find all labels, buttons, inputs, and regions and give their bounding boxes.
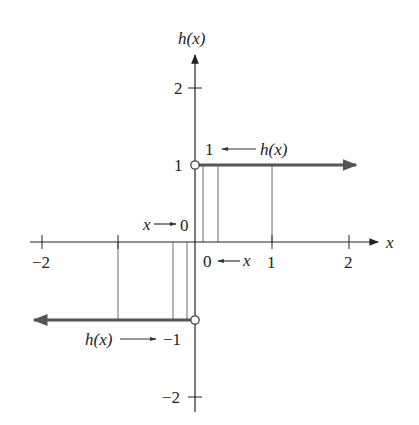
annotation-x-left-zero: 0	[180, 216, 189, 235]
x-tick-label-neg2: −2	[32, 253, 50, 272]
annotation-x-right-zero: 0	[203, 252, 212, 271]
annotation-upper-limit: 1	[205, 140, 214, 159]
x-tick-label-2: 2	[344, 253, 353, 272]
x-tick-label-1: 1	[267, 253, 276, 272]
y-tick-label-2: 2	[174, 79, 183, 98]
annotation-x-left: x	[142, 215, 151, 234]
annotation-lower-limit: −1	[163, 330, 181, 349]
guide-lines-positive	[203, 165, 272, 242]
annotation-x-right-x: x	[242, 251, 251, 270]
y-tick-label-1: 1	[174, 156, 183, 175]
annotation-upper-hx: h(x)	[260, 140, 288, 159]
step-function-figure: h(x) x 2 1 −2 −2 1 2 1 h(x) h(x) −1 x 0 …	[0, 0, 419, 425]
open-endpoint-lower	[191, 316, 199, 324]
y-tick-label-neg2: −2	[162, 388, 180, 407]
x-axis-label: x	[385, 233, 394, 252]
y-axis-label: h(x)	[178, 29, 206, 48]
annotation-lower-hx: h(x)	[85, 330, 113, 349]
open-endpoint-upper	[191, 161, 199, 169]
guide-lines-negative	[118, 242, 187, 320]
